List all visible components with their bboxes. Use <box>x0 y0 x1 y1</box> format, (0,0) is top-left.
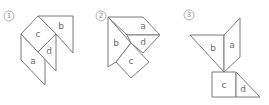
piece-label-b: b <box>113 38 119 48</box>
piece-label-d: d <box>140 37 146 47</box>
number-text: 3 <box>187 11 191 19</box>
piece-b <box>190 35 224 72</box>
piece-label-b: b <box>58 21 64 31</box>
figure-number-2: 2 <box>96 11 106 21</box>
piece-label-c: c <box>129 56 134 66</box>
number-text: 2 <box>99 12 103 20</box>
figure-1: 1 b c d a <box>4 11 73 85</box>
piece-label-c: c <box>222 80 227 90</box>
piece-label-c: c <box>36 29 41 39</box>
piece-label-d: d <box>240 84 246 94</box>
piece-label-a: a <box>30 56 36 66</box>
figure-2: 2 a b d c <box>96 11 160 78</box>
figure-number-1: 1 <box>4 11 14 21</box>
figure-3: 3 b a c d <box>184 10 260 97</box>
piece-label-a: a <box>229 40 235 50</box>
tangram-figures: 1 b c d a 2 a b d c 3 b a <box>0 0 269 105</box>
figure-number-3: 3 <box>184 10 194 20</box>
piece-label-d: d <box>46 46 52 56</box>
piece-label-b: b <box>210 43 216 53</box>
piece-label-a: a <box>140 21 146 31</box>
number-text: 1 <box>7 12 11 20</box>
